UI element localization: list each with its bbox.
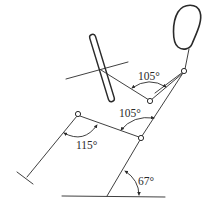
- seatback-angle-arc: [125, 171, 139, 195]
- shoulder-joint: [181, 68, 186, 73]
- elbow-joint: [147, 98, 152, 103]
- hip-joint: [138, 135, 143, 140]
- elbow-angle-label: 105°: [138, 70, 160, 82]
- head-shape: [174, 5, 201, 49]
- floor-line: [62, 196, 165, 197]
- elbow-angle-arc: [132, 82, 166, 88]
- steering-column-line: [66, 62, 128, 79]
- seat-back-line: [107, 140, 140, 196]
- hip-angle-label: 105°: [119, 107, 141, 119]
- knee-angle-label: 115°: [76, 139, 98, 151]
- torso-line: [142, 73, 183, 136]
- knee-joint: [75, 111, 80, 116]
- hip-angle-arc: [121, 118, 154, 131]
- seatback-angle-label: 67°: [138, 175, 155, 187]
- steering-wheel-icon: [89, 34, 115, 103]
- driver-posture-diagram: 105° 105° 115° 67°: [0, 0, 213, 216]
- neck-line: [185, 49, 189, 69]
- shin-line: [27, 116, 77, 177]
- foot-line: [17, 172, 33, 184]
- knee-angle-arc: [64, 125, 97, 137]
